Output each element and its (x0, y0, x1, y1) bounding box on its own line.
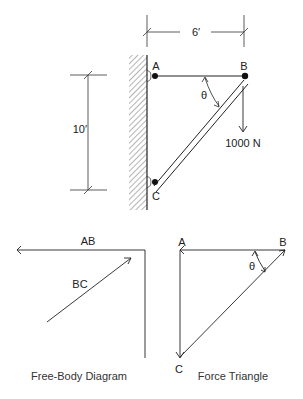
truss-diagram: 6′ 10′ A B C θ 1000 N AB BC Free- (0, 0, 303, 399)
vertex-c-label: C (175, 363, 183, 375)
vertex-b-label: B (279, 236, 286, 248)
joint-b-label: B (240, 60, 247, 72)
force-ab-label: AB (81, 235, 96, 247)
force-bc-label: BC (72, 278, 87, 290)
vertex-a-label: A (178, 236, 186, 248)
free-body-diagram (17, 246, 145, 358)
free-body-caption: Free-Body Diagram (31, 370, 127, 382)
wall (129, 55, 147, 210)
height-label: 10′ (73, 123, 87, 135)
force-triangle (176, 246, 285, 358)
force-triangle-caption: Force Triangle (198, 370, 268, 382)
width-label: 6′ (192, 26, 200, 38)
theta-label: θ (201, 89, 207, 101)
joint-c-label: C (152, 190, 160, 202)
joint-c (152, 179, 158, 185)
joint-a (152, 73, 158, 79)
joint-a-label: A (152, 60, 160, 72)
joint-b (242, 73, 248, 79)
triangle-theta-label: θ (249, 260, 255, 272)
theta-arc (205, 78, 219, 106)
load-label: 1000 N (225, 137, 261, 149)
